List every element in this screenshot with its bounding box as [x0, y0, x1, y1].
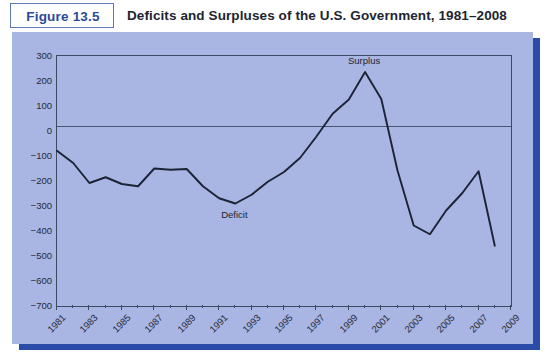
- x-axis-major-tick: [251, 305, 252, 310]
- x-axis-major-tick: [445, 305, 446, 310]
- x-axis-tick-label: 1997: [304, 312, 327, 335]
- x-axis-tick-label: 1983: [77, 312, 100, 335]
- x-axis-minor-tick: [137, 305, 138, 308]
- x-axis-major-tick: [315, 305, 316, 310]
- x-axis-tick-label: 1995: [272, 312, 295, 335]
- x-axis-minor-tick: [202, 305, 203, 308]
- x-axis-major-tick: [56, 305, 57, 310]
- x-axis-tick-label: 2003: [402, 312, 425, 335]
- x-axis-minor-tick: [429, 305, 430, 308]
- chart-panel: 3002001000−100−200−300−400−500−600−700 1…: [12, 32, 533, 344]
- chart-annotation-deficit: Deficit: [221, 209, 247, 220]
- y-axis-tick-label: 100: [12, 100, 52, 111]
- x-axis-major-tick: [380, 305, 381, 310]
- x-axis-minor-tick: [494, 305, 495, 308]
- x-axis-tick-label: 2001: [369, 312, 392, 335]
- y-axis-tick-label: −100: [12, 150, 52, 161]
- y-axis-tick-label: −700: [12, 300, 52, 311]
- x-axis-major-tick: [478, 305, 479, 310]
- x-axis-major-tick: [413, 305, 414, 310]
- y-axis-tick-label: 200: [12, 75, 52, 86]
- y-axis-tick-label: −600: [12, 275, 52, 286]
- figure-header: Figure 13.5 Deficits and Surpluses of th…: [10, 2, 532, 30]
- x-axis-tick-label: 1985: [110, 312, 133, 335]
- x-axis-minor-tick: [170, 305, 171, 308]
- figure-number-label: Figure 13.5: [11, 4, 115, 29]
- x-axis-minor-tick: [461, 305, 462, 308]
- x-axis-major-tick: [186, 305, 187, 310]
- x-axis-tick-label: 1981: [45, 312, 68, 335]
- x-axis-minor-tick: [364, 305, 365, 308]
- x-axis-major-tick: [121, 305, 122, 310]
- x-axis-tick-label: 1987: [142, 312, 165, 335]
- x-axis-tick-label: 1991: [207, 312, 230, 335]
- x-axis-major-tick: [218, 305, 219, 310]
- x-axis-tick-label: 1999: [337, 312, 360, 335]
- x-axis-tick-label: 2005: [434, 312, 457, 335]
- series-polyline: [57, 72, 495, 246]
- y-axis-tick-label: −300: [12, 200, 52, 211]
- x-axis-minor-tick: [105, 305, 106, 308]
- x-axis-tick-label: 1989: [175, 312, 198, 335]
- x-axis-minor-tick: [267, 305, 268, 308]
- series-line-chart: [57, 56, 511, 306]
- y-axis-tick-label: −200: [12, 175, 52, 186]
- x-axis-major-tick: [510, 305, 511, 310]
- x-axis-minor-tick: [234, 305, 235, 308]
- x-axis-major-tick: [88, 305, 89, 310]
- x-axis: 1981198319851987198919911993199519971999…: [56, 305, 512, 345]
- figure-container: Figure 13.5 Deficits and Surpluses of th…: [0, 0, 548, 355]
- x-axis-major-tick: [348, 305, 349, 310]
- x-axis-minor-tick: [299, 305, 300, 308]
- x-axis-tick-label: 1993: [240, 312, 263, 335]
- x-axis-minor-tick: [72, 305, 73, 308]
- x-axis-tick-label: 2007: [467, 312, 490, 335]
- figure-title: Deficits and Surpluses of the U.S. Gover…: [127, 3, 507, 28]
- x-axis-major-tick: [153, 305, 154, 310]
- y-axis-tick-label: 0: [12, 125, 52, 136]
- chart-annotation-surplus: Surplus: [348, 55, 380, 66]
- x-axis-minor-tick: [397, 305, 398, 308]
- y-axis-tick-label: 300: [12, 50, 52, 61]
- figure-number-box: Figure 13.5: [10, 3, 114, 28]
- x-axis-tick-label: 2009: [499, 312, 522, 335]
- y-axis-tick-label: −400: [12, 225, 52, 236]
- y-axis-tick-label: −500: [12, 250, 52, 261]
- y-axis: 3002001000−100−200−300−400−500−600−700: [12, 55, 52, 305]
- x-axis-minor-tick: [332, 305, 333, 308]
- x-axis-major-tick: [283, 305, 284, 310]
- plot-area: [56, 55, 512, 307]
